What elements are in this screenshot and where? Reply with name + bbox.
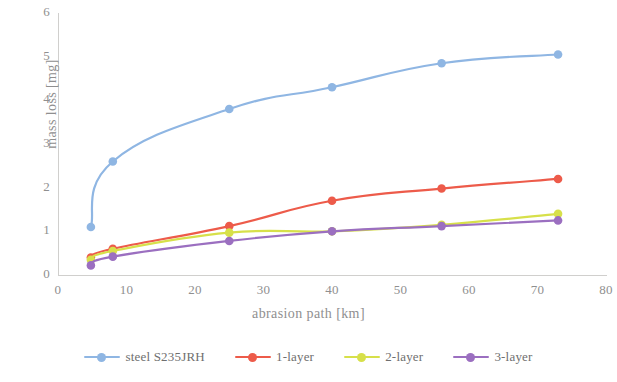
data-point-marker: [225, 105, 234, 114]
data-point-marker: [87, 223, 96, 232]
data-point-marker: [437, 184, 446, 193]
x-tick-label: 80: [586, 282, 617, 298]
x-tick-label: 20: [175, 282, 215, 298]
legend-marker-dot: [466, 353, 475, 362]
data-point-marker: [554, 50, 563, 59]
series-line: [91, 179, 558, 258]
x-axis-line: [58, 275, 607, 276]
data-point-marker: [328, 227, 337, 236]
legend-label: 1-layer: [276, 349, 314, 365]
legend-label: steel S235JRH: [125, 349, 205, 365]
x-tick-label: 70: [518, 282, 558, 298]
data-point-marker: [87, 261, 96, 270]
legend-item-2[interactable]: 1-layer: [235, 349, 314, 365]
x-tick-label: 0: [38, 282, 78, 298]
y-tick-label: 1: [24, 222, 50, 238]
x-tick-label: 30: [244, 282, 284, 298]
legend-swatch-icon: [235, 351, 271, 363]
legend-swatch-icon: [344, 351, 380, 363]
chart-legend: steel S235JRH1-layer2-layer3-layer: [0, 349, 617, 365]
series-1: [87, 50, 563, 231]
x-tick-label: 10: [107, 282, 147, 298]
x-tick-label: 60: [449, 282, 489, 298]
y-tick-label: 6: [24, 4, 50, 20]
y-axis-title: mass loss [mg]: [44, 44, 60, 164]
data-point-marker: [109, 252, 118, 261]
legend-marker-dot: [97, 353, 106, 362]
y-tick-label: 0: [24, 266, 50, 282]
y-tick-label: 2: [24, 179, 50, 195]
legend-item-4[interactable]: 3-layer: [453, 349, 532, 365]
data-point-marker: [437, 59, 446, 68]
series-3: [87, 210, 563, 264]
legend-swatch-icon: [84, 351, 120, 363]
data-point-marker: [437, 222, 446, 231]
data-point-marker: [225, 237, 234, 246]
series-canvas: [58, 13, 606, 275]
data-point-marker: [554, 216, 563, 225]
x-tick-label: 50: [381, 282, 421, 298]
chart-figure: 0123456 01020304050607080 mass loss [mg]…: [0, 0, 617, 382]
data-point-marker: [328, 196, 337, 205]
data-point-marker: [109, 157, 118, 166]
plot-area: [58, 13, 606, 275]
legend-item-3[interactable]: 2-layer: [344, 349, 423, 365]
legend-item-1[interactable]: steel S235JRH: [84, 349, 205, 365]
data-point-marker: [554, 175, 563, 184]
legend-label: 3-layer: [494, 349, 532, 365]
series-line: [91, 214, 558, 260]
data-point-marker: [328, 83, 337, 92]
legend-marker-dot: [248, 353, 257, 362]
data-point-marker: [225, 228, 234, 237]
x-tick-label: 40: [312, 282, 352, 298]
legend-marker-dot: [357, 353, 366, 362]
x-axis-title: abrasion path [km]: [0, 306, 617, 322]
legend-swatch-icon: [453, 351, 489, 363]
legend-label: 2-layer: [385, 349, 423, 365]
